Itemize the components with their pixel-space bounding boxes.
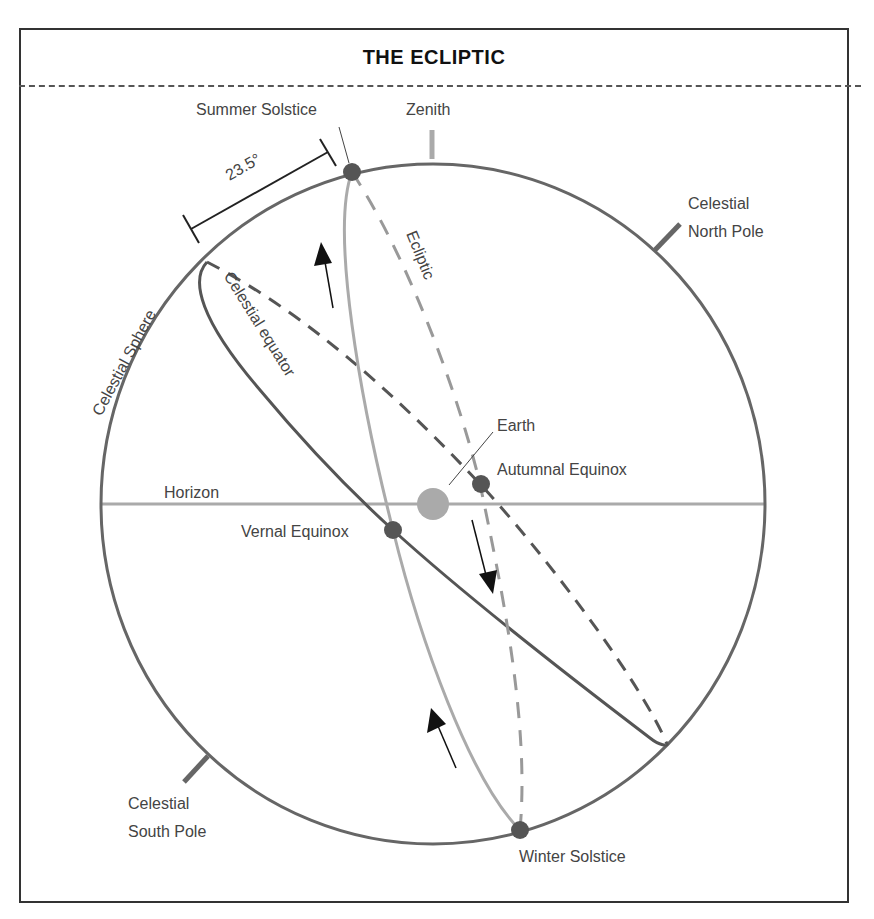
winter-solstice-point bbox=[511, 821, 529, 839]
north-pole-label-line2: North Pole bbox=[688, 222, 764, 242]
south-pole-label-line2: South Pole bbox=[128, 822, 206, 842]
vernal-equinox-label: Vernal Equinox bbox=[241, 522, 349, 542]
south-pole-label-line1: Celestial bbox=[128, 794, 189, 814]
direction-arrow-icon bbox=[314, 242, 333, 308]
direction-arrow-icon bbox=[427, 708, 456, 768]
earth-label: Earth bbox=[497, 416, 535, 436]
autumnal-equinox-label: Autumnal Equinox bbox=[497, 460, 627, 480]
summer-solstice-leader bbox=[339, 127, 349, 163]
north-pole-label-line1: Celestial bbox=[688, 194, 749, 214]
horizon-label: Horizon bbox=[164, 483, 219, 503]
angle-bracket-end-right bbox=[320, 139, 336, 166]
earth-marker bbox=[417, 488, 449, 520]
north-pole-tick bbox=[655, 224, 680, 250]
summer-solstice-label: Summer Solstice bbox=[196, 100, 317, 120]
angle-bracket-end-left bbox=[183, 215, 199, 243]
autumnal-equinox-point bbox=[472, 475, 490, 493]
summer-solstice-point bbox=[343, 163, 361, 181]
ecliptic-diagram bbox=[0, 0, 874, 919]
vernal-equinox-point bbox=[384, 521, 402, 539]
zenith-label: Zenith bbox=[406, 100, 450, 120]
winter-solstice-label: Winter Solstice bbox=[519, 847, 626, 867]
south-pole-tick bbox=[184, 756, 208, 782]
direction-arrow-icon bbox=[472, 520, 497, 594]
